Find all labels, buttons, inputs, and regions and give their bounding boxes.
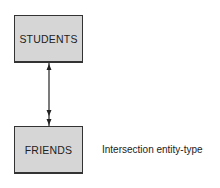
annotation-label: Intersection entity-type	[102, 144, 203, 155]
arrowhead-down-icon	[47, 119, 52, 125]
entity-friends[interactable]: FRIENDS	[14, 126, 83, 174]
entity-label: STUDENTS	[19, 33, 77, 45]
entity-students[interactable]: STUDENTS	[14, 15, 83, 63]
arrowhead-up-icon	[47, 64, 52, 70]
entity-label: FRIENDS	[25, 144, 73, 156]
arrowhead-down-icon	[47, 110, 52, 116]
